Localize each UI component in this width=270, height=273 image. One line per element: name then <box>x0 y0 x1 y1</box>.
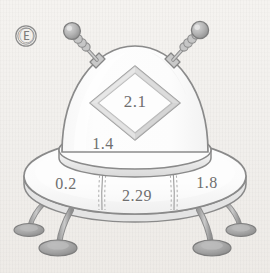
leg-near-right <box>193 210 231 256</box>
circled-letter-logo-icon: Ⓔ <box>14 24 38 48</box>
label-saucer-left-value: 0.2 <box>55 175 77 193</box>
logo-letter: Ⓔ <box>14 24 38 48</box>
label-saucer-center-value: 2.29 <box>122 187 152 205</box>
label-saucer-right-value: 1.8 <box>196 174 218 192</box>
leg-near-left <box>39 210 77 256</box>
label-dome-value: 1.4 <box>92 135 114 153</box>
antenna-right <box>165 21 209 68</box>
flying-saucer-illustration <box>0 0 270 273</box>
illustration-canvas: 2.1 1.4 0.2 2.29 1.8 Ⓔ <box>0 0 270 273</box>
leg-far-right <box>226 203 256 237</box>
label-diamond-value: 2.1 <box>124 92 147 112</box>
leg-far-left <box>14 203 44 237</box>
antenna-left <box>64 23 105 68</box>
